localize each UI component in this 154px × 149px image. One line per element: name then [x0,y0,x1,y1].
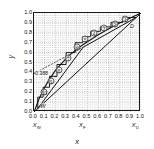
composition-marker: XD [132,121,139,130]
composition-marker: XW [33,121,41,130]
plot-area: 12345678910 W D 0.388 [33,12,140,111]
y-tick-label: 0.3 [2,78,32,84]
y-tick-label: 0.4 [2,68,32,74]
bottoms-point-label: W [40,103,45,109]
y-tick-label: 0.6 [2,49,32,55]
y-tick-label: 0.1 [2,98,32,104]
stage-number: 8 [56,66,63,73]
stage-number: 7 [65,55,72,62]
stage-number: 2 [111,20,118,27]
composition-markers: XWXFXD [33,121,140,131]
feed-intercept-value: 0.388 [35,70,48,76]
composition-marker-subscript: D [136,125,139,130]
plot-canvas [34,13,141,112]
y-tick-label: 1.0 [2,9,32,15]
y-tick-label: 0.5 [2,59,32,65]
y-axis-tick-labels: 1.0 0.9 0.8 0.7 0.6 0.5 0.4 0.3 0.2 0.1 … [0,12,32,111]
distillate-point-label: D [130,23,134,29]
stage-number: 9 [48,78,55,85]
composition-marker-subscript: W [37,125,41,130]
stage-number: 4 [90,30,97,37]
y-tick-label: 0.2 [2,88,32,94]
stage-number: 3 [101,25,108,32]
composition-marker: XF [79,121,86,130]
x-axis-title: x [0,137,154,146]
mccabe-thiele-diagram: y 1.0 0.9 0.8 0.7 0.6 0.5 0.4 0.3 0.2 0.… [0,0,154,149]
x-axis-tick-labels: 0.0 0.1 0.2 0.3 0.4 0.5 0.6 0.7 0.8 0.9 … [33,113,140,121]
stage-number: 10 [41,89,48,96]
composition-marker-subscript: F [83,125,86,130]
stage-number: 5 [82,35,89,42]
x-tick-label: 1.0 [133,113,147,119]
stage-number: 1 [122,16,129,23]
y-tick-label: 0.9 [2,19,32,25]
y-tick-label: 0.8 [2,29,32,35]
y-tick-label: 0.7 [2,39,32,45]
stage-number: 6 [74,43,81,50]
